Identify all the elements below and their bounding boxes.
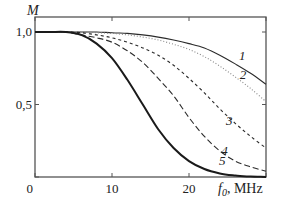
line-chart: 12345 010200,51,0 M f0, MHz (0, 0, 282, 203)
curve-label-1: 1 (239, 48, 246, 63)
y-axis-title: M (26, 3, 40, 18)
curve-labels: 12345 (219, 48, 247, 168)
x-axis-title: f0, MHz (218, 181, 263, 198)
x-tick-label: 0 (27, 181, 34, 196)
y-tick-label: 0,5 (16, 97, 32, 112)
curve-4 (35, 32, 266, 171)
plot-border (35, 17, 266, 177)
curve-label-5: 5 (219, 153, 226, 168)
y-tick-label: 1,0 (16, 24, 32, 39)
tick-labels: 010200,51,0 (16, 24, 196, 196)
curves (35, 32, 266, 177)
curve-label-3: 3 (225, 113, 233, 128)
curve-1 (35, 32, 266, 84)
x-tick-label: 20 (183, 181, 196, 196)
curve-3 (35, 32, 266, 148)
curve-2 (35, 32, 266, 102)
curve-5 (35, 32, 266, 177)
axis-ticks (35, 17, 266, 177)
plot-frame (35, 17, 266, 177)
x-tick-label: 10 (106, 181, 119, 196)
curve-label-2: 2 (240, 67, 247, 82)
